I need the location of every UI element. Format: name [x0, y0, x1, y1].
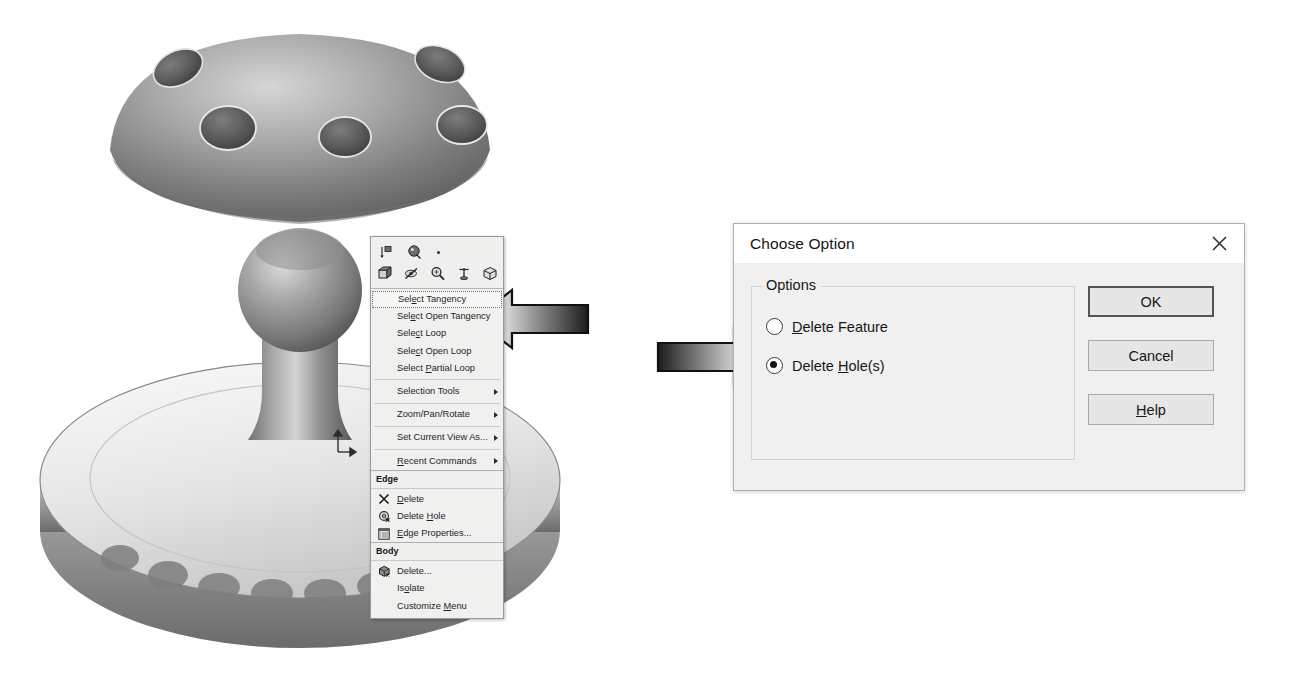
magnifier-icon[interactable]: [429, 264, 446, 283]
menu-item-label: Select Open Tangency: [397, 311, 490, 321]
radio-indicator[interactable]: [766, 357, 783, 374]
button-label: Cancel: [1128, 348, 1173, 364]
menu-item-set-current-view-as[interactable]: Set Current View As...: [371, 429, 503, 446]
menu-separator: [374, 426, 500, 427]
delete-x-icon: [376, 492, 392, 506]
menu-item-select-open-tangency[interactable]: Select Open Tangency: [371, 308, 503, 325]
button-label: Help: [1136, 402, 1166, 418]
hole-3: [200, 106, 256, 150]
hole-4: [319, 117, 371, 157]
options-group: Options Delete Feature Delete Hole(s): [751, 286, 1075, 460]
delete-hole-icon: [376, 509, 392, 523]
chevron-right-icon: [494, 412, 498, 418]
menu-item-edge-delete[interactable]: Delete: [371, 491, 503, 508]
hide-icon[interactable]: [403, 264, 420, 283]
menu-item-zoom-pan-rotate[interactable]: Zoom/Pan/Rotate: [371, 406, 503, 423]
menu-item-label: Select Tangency: [398, 294, 466, 304]
body-group-items[interactable]: Delete... Isolate Customize Menu: [371, 561, 503, 618]
toolbar-row-1: [377, 242, 499, 263]
menu-item-label: Select Partial Loop: [397, 363, 475, 373]
radio-label: Delete Hole(s): [792, 358, 885, 374]
radio-delete-feature[interactable]: Delete Feature: [766, 318, 888, 335]
menu-item-label: Delete...: [397, 566, 432, 576]
chevron-right-icon: [494, 389, 498, 395]
menu-item-edge-delete-hole[interactable]: Delete Hole: [371, 508, 503, 525]
group-label: Body: [376, 546, 399, 556]
axis-icon[interactable]: [456, 264, 473, 283]
context-menu-toolbar[interactable]: [371, 237, 503, 289]
menu-item-label: Select Loop: [397, 328, 446, 338]
hole-5: [437, 106, 487, 144]
menu-item-label: Delete: [397, 494, 424, 504]
menu-group-header-body: Body: [371, 542, 503, 561]
menu-separator: [374, 449, 500, 450]
context-menu-items[interactable]: Select Tangency Select Open Tangency Sel…: [371, 289, 503, 470]
help-button[interactable]: Help: [1088, 394, 1214, 425]
chevron-right-icon: [494, 435, 498, 441]
menu-item-select-tangency[interactable]: Select Tangency: [372, 291, 502, 308]
menu-separator: [374, 403, 500, 404]
dialog-titlebar: Choose Option: [734, 224, 1244, 264]
toolbar-row-2: [377, 263, 499, 284]
edge-properties-icon: [376, 527, 392, 541]
radio-label: Delete Feature: [792, 319, 888, 335]
menu-item-selection-tools[interactable]: Selection Tools: [371, 383, 503, 400]
menu-item-label: Customize Menu: [397, 601, 467, 611]
menu-item-select-open-loop[interactable]: Select Open Loop: [371, 343, 503, 360]
dimension-icon[interactable]: [377, 243, 396, 262]
button-label: OK: [1141, 294, 1162, 310]
faces-icon[interactable]: [377, 264, 394, 283]
menu-item-body-delete[interactable]: Delete...: [371, 563, 503, 580]
options-legend: Options: [764, 277, 821, 293]
dialog-title: Choose Option: [750, 235, 855, 253]
menu-item-recent-commands[interactable]: Recent Commands: [371, 453, 503, 470]
menu-item-label: Zoom/Pan/Rotate: [397, 409, 470, 419]
menu-item-label: Isolate: [397, 583, 424, 593]
close-icon[interactable]: [1200, 229, 1238, 259]
menu-item-customize-menu[interactable]: Customize Menu: [371, 598, 503, 615]
menu-item-label: Delete Hole: [397, 511, 446, 521]
ok-button[interactable]: OK: [1088, 286, 1214, 317]
menu-item-label: Select Open Loop: [397, 346, 471, 356]
menu-item-body-isolate[interactable]: Isolate: [371, 580, 503, 597]
edge-group-items[interactable]: Delete Delete Hole Edge Pro: [371, 489, 503, 543]
chevron-right-icon: [494, 458, 498, 464]
balloon-icon[interactable]: [405, 243, 424, 262]
more-dot-icon[interactable]: [433, 243, 443, 262]
dialog-body: Options Delete Feature Delete Hole(s) OK…: [734, 264, 1244, 489]
cube-icon[interactable]: [482, 264, 499, 283]
context-menu[interactable]: Select Tangency Select Open Tangency Sel…: [370, 236, 504, 619]
menu-item-select-partial-loop[interactable]: Select Partial Loop: [371, 360, 503, 377]
delete-body-icon: [376, 565, 392, 579]
radio-indicator[interactable]: [766, 318, 783, 335]
menu-item-label: Selection Tools: [397, 386, 459, 396]
menu-group-header-edge: Edge: [371, 470, 503, 489]
menu-item-label: Set Current View As...: [397, 432, 488, 442]
menu-item-label: Recent Commands: [397, 456, 477, 466]
cancel-button[interactable]: Cancel: [1088, 340, 1214, 371]
menu-item-edge-properties[interactable]: Edge Properties...: [371, 525, 503, 542]
menu-item-label: Edge Properties...: [397, 528, 471, 538]
radio-delete-holes[interactable]: Delete Hole(s): [766, 357, 885, 374]
menu-separator: [374, 379, 500, 380]
choose-option-dialog[interactable]: Choose Option Options Delete Feature Del…: [733, 223, 1245, 491]
group-label: Edge: [376, 474, 398, 484]
menu-item-select-loop[interactable]: Select Loop: [371, 325, 503, 342]
